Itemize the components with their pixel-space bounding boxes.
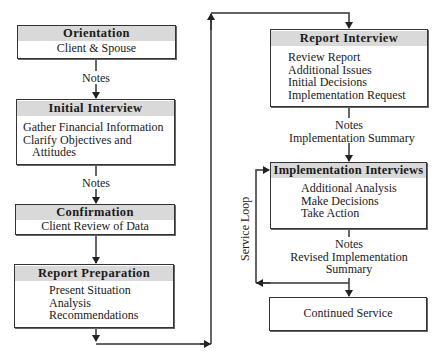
node-line: Implementation Request xyxy=(288,89,427,102)
node-line: Continued Service xyxy=(270,298,426,329)
node-line: Client Review of Data xyxy=(16,220,174,233)
edge-label-notes: Notes xyxy=(76,72,116,85)
node-report-preparation: Report Preparation Present Situation Ana… xyxy=(14,264,174,328)
node-confirmation: Confirmation Client Review of Data xyxy=(15,204,175,235)
node-line: Review Report xyxy=(288,51,427,64)
edge-label-line: Notes xyxy=(289,119,409,132)
node-line: Recommendations xyxy=(49,309,173,322)
node-continued-service: Continued Service xyxy=(269,297,427,331)
node-line: Attitudes xyxy=(23,146,174,159)
node-line: Take Action xyxy=(301,207,426,220)
node-line: Gather Financial Information xyxy=(23,121,174,134)
edge-label-line: Implementation Summary xyxy=(289,132,409,145)
node-title: Report Interview xyxy=(271,31,427,46)
node-implementation-interviews: Implementation Interviews Additional Ana… xyxy=(270,162,427,229)
edge-label-line: Summary xyxy=(289,263,409,276)
node-initial-interview: Initial Interview Gather Financial Infor… xyxy=(16,99,175,165)
node-line: Initial Decisions xyxy=(288,76,427,89)
node-title: Initial Interview xyxy=(17,101,174,116)
service-loop-label: Service Loop xyxy=(238,197,253,261)
edge-label-notes: Notes xyxy=(76,177,116,190)
node-report-interview: Report Interview Review Report Additiona… xyxy=(270,29,428,107)
node-orientation: Orientation Client & Spouse xyxy=(17,25,176,59)
node-line: Present Situation xyxy=(49,284,173,297)
node-line: Client & Spouse xyxy=(18,42,175,55)
edge-label-revised-summary: Notes Revised Implementation Summary xyxy=(289,238,409,276)
node-line: Additional Analysis xyxy=(301,182,426,195)
edge-label-notes-summary: Notes Implementation Summary xyxy=(289,119,409,144)
edge-label-line: Notes xyxy=(289,238,409,251)
node-title: Confirmation xyxy=(16,205,174,220)
node-title: Report Preparation xyxy=(15,266,173,281)
node-title: Orientation xyxy=(18,26,175,41)
node-title: Implementation Interviews xyxy=(271,163,426,178)
